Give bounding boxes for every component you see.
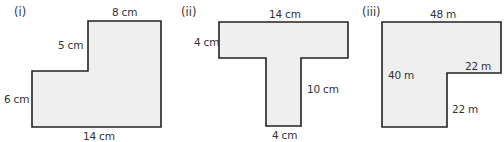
figure-iii-top-dimension: 48 m <box>430 8 456 20</box>
figure-ii-shape <box>219 22 348 126</box>
figure-iii-label: (iii) <box>362 5 381 19</box>
compound-shapes-diagram: (i) 8 cm 5 cm 6 cm 14 cm (ii) 14 cm 4 cm… <box>0 0 504 142</box>
figure-i: (i) 8 cm 5 cm 6 cm 14 cm <box>4 5 161 142</box>
figure-ii-label: (ii) <box>181 5 196 19</box>
figure-iii-left-dimension: 40 m <box>388 69 414 81</box>
figure-ii: (ii) 14 cm 4 cm 10 cm 4 cm <box>181 5 348 141</box>
figure-iii: (iii) 48 m 40 m 22 m 22 m <box>362 5 501 127</box>
figure-ii-stem-height-dimension: 10 cm <box>307 83 339 95</box>
figure-iii-notch-vertical-dimension: 22 m <box>452 103 478 115</box>
figure-ii-top-dimension: 14 cm <box>269 8 301 20</box>
figure-i-bottom-dimension: 14 cm <box>83 130 115 142</box>
figure-ii-bar-height-dimension: 4 cm <box>194 36 219 48</box>
figure-i-left-dimension: 6 cm <box>4 93 29 105</box>
figure-i-top-dimension: 8 cm <box>112 6 137 18</box>
figure-i-step-dimension: 5 cm <box>58 39 83 51</box>
figure-i-label: (i) <box>14 5 26 19</box>
figure-ii-stem-width-dimension: 4 cm <box>272 129 297 141</box>
figure-i-shape <box>32 21 161 127</box>
figure-iii-notch-horizontal-dimension: 22 m <box>465 60 491 72</box>
